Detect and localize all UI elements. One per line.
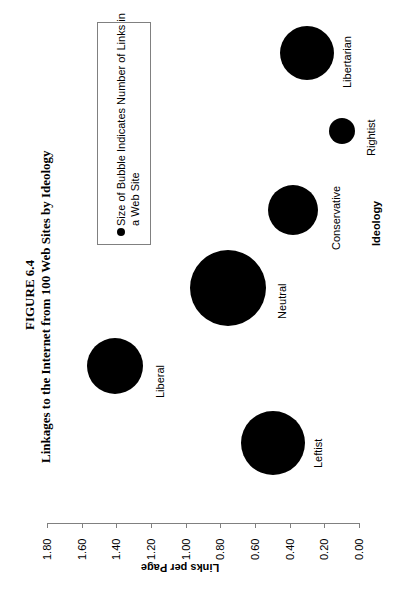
tick-label: 1.20 [145, 539, 157, 560]
tick-label: 0.20 [318, 539, 330, 560]
bubble-leftist [241, 411, 305, 475]
axis-tick [151, 523, 152, 528]
axis-tick [324, 523, 325, 528]
tick-label: 0.40 [284, 539, 296, 560]
legend-bullet-icon [117, 228, 125, 236]
axis-tick [116, 523, 117, 528]
tick-label: 0.60 [249, 539, 261, 560]
axis-tick [186, 523, 187, 528]
axis-tick [359, 523, 360, 528]
axis-tick [220, 523, 221, 528]
axis-tick [47, 523, 48, 528]
category-label-conservative: Conservative [330, 186, 342, 250]
axis-tick [82, 523, 83, 528]
axis-tick [255, 523, 256, 528]
figure-label: FIGURE 6.4 [22, 260, 38, 330]
x-axis-title: Ideology [370, 201, 382, 246]
tick-label: 1.80 [41, 539, 53, 560]
tick-label: 1.00 [180, 539, 192, 560]
legend-entry: Size of Bubble Indicates Number of Links… [114, 26, 142, 236]
y-axis-title: Links per Page [135, 562, 225, 574]
tick-label: 1.40 [110, 539, 122, 560]
chart-title: Linkages to the Internet from 100 Web Si… [38, 150, 54, 463]
tick-label: 0.00 [353, 539, 365, 560]
bubble-liberal [87, 338, 143, 394]
tick-label: 1.60 [76, 539, 88, 560]
bubble-rightist [329, 118, 355, 144]
legend-line-1: Size of Bubble Indicates Number of Links… [115, 13, 127, 226]
category-label-neutral: Neutral [276, 284, 288, 319]
bubble-conservative [268, 185, 318, 235]
category-label-liberal: Liberal [154, 365, 166, 398]
axis-tick [290, 523, 291, 528]
legend-line-2: a Web Site [129, 172, 141, 226]
value-axis-line [47, 523, 360, 524]
bubble-neutral [190, 250, 266, 326]
tick-label: 0.80 [214, 539, 226, 560]
category-label-rightist: Rightist [365, 119, 377, 156]
bubble-libertarian [280, 26, 334, 80]
category-label-leftist: Leftist [312, 439, 324, 468]
category-label-libertarian: Libertarian [341, 36, 353, 88]
